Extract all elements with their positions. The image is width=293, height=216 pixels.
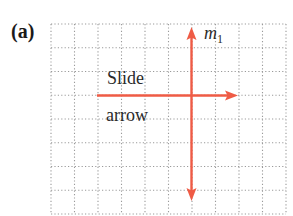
mirror-line-letter: m	[204, 23, 217, 43]
mirror-line-subscript: 1	[217, 32, 223, 46]
slide-arrow	[97, 91, 238, 101]
mirror-line-m1	[187, 27, 197, 201]
figure-a: (a) Slide arrow m1	[0, 0, 293, 216]
panel-label: (a)	[11, 21, 34, 41]
slide-label: Slide	[107, 69, 144, 87]
arrow-label: arrow	[106, 106, 148, 124]
mirror-line-label: m1	[204, 24, 223, 45]
dotted-grid	[51, 24, 286, 214]
